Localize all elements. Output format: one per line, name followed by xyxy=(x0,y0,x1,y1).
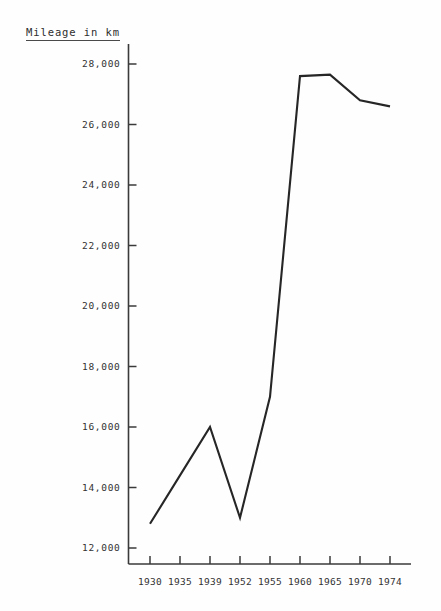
x-axis-tick-label: 1970 xyxy=(343,577,377,587)
y-axis-tick-label: 28,000 xyxy=(59,59,121,69)
y-axis-tick-label: 12,000 xyxy=(59,543,121,553)
y-axis-tick-label: 26,000 xyxy=(59,120,121,130)
x-axis-tick-label: 1935 xyxy=(163,577,197,587)
chart-figure: Mileage in km 12,00014,00016,00018,00020… xyxy=(0,0,441,611)
y-axis-tick-label: 18,000 xyxy=(59,362,121,372)
x-axis-tick-label: 1930 xyxy=(133,577,167,587)
x-axis-tick-label: 1955 xyxy=(253,577,287,587)
x-axis-tick-label: 1952 xyxy=(223,577,257,587)
x-axis-tick-label: 1960 xyxy=(283,577,317,587)
x-axis-tick-label: 1939 xyxy=(193,577,227,587)
x-axis-ticks xyxy=(150,556,390,564)
x-axis-tick-label: 1965 xyxy=(313,577,347,587)
axes xyxy=(129,44,412,564)
y-axis-tick-label: 14,000 xyxy=(59,483,121,493)
x-axis-tick-label: 1974 xyxy=(373,577,407,587)
plot-area: 12,00014,00016,00018,00020,00022,00024,0… xyxy=(0,0,441,611)
y-axis-tick-label: 16,000 xyxy=(59,422,121,432)
y-axis-ticks xyxy=(129,64,137,548)
y-axis-tick-label: 24,000 xyxy=(59,180,121,190)
y-axis-tick-label: 22,000 xyxy=(59,241,121,251)
data-series-line xyxy=(150,75,390,524)
y-axis-tick-label: 20,000 xyxy=(59,301,121,311)
